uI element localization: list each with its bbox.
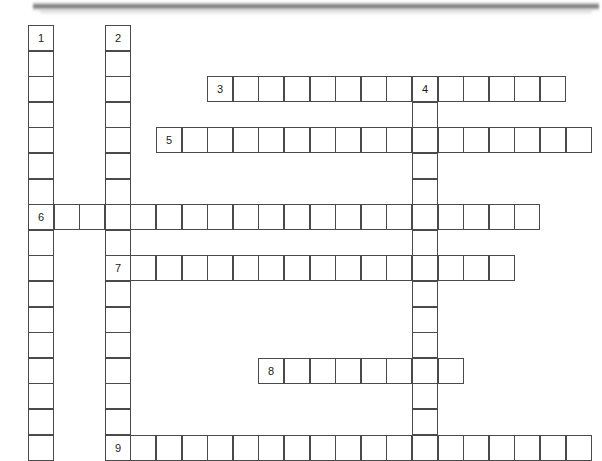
crossword-cell[interactable] <box>386 127 412 153</box>
crossword-cell[interactable] <box>412 307 438 333</box>
crossword-cell[interactable] <box>258 255 284 281</box>
crossword-cell[interactable] <box>310 204 336 230</box>
crossword-cell[interactable] <box>310 358 336 384</box>
crossword-cell[interactable] <box>258 435 284 461</box>
crossword-cell[interactable] <box>310 435 336 461</box>
crossword-cell[interactable] <box>412 255 438 281</box>
crossword-cell[interactable] <box>361 358 387 384</box>
crossword-cell[interactable] <box>489 76 515 102</box>
crossword-cell[interactable] <box>412 127 438 153</box>
crossword-cell[interactable] <box>438 204 464 230</box>
crossword-cell[interactable] <box>361 127 387 153</box>
crossword-cell[interactable] <box>284 255 310 281</box>
crossword-cell[interactable] <box>310 76 336 102</box>
crossword-cell[interactable] <box>412 435 438 461</box>
crossword-cell[interactable] <box>105 358 131 384</box>
crossword-cell[interactable] <box>514 435 540 461</box>
crossword-cell[interactable] <box>540 127 566 153</box>
crossword-cell[interactable] <box>28 255 54 281</box>
crossword-cell[interactable] <box>463 255 489 281</box>
crossword-cell[interactable] <box>105 409 131 435</box>
crossword-cell[interactable] <box>207 435 233 461</box>
crossword-cell[interactable] <box>412 153 438 179</box>
crossword-cell[interactable] <box>28 230 54 256</box>
crossword-cell[interactable] <box>438 127 464 153</box>
crossword-cell[interactable] <box>182 204 208 230</box>
crossword-cell-numbered[interactable]: 3 <box>207 76 233 102</box>
crossword-cell[interactable] <box>412 230 438 256</box>
crossword-cell-numbered[interactable]: 9 <box>105 435 131 461</box>
crossword-cell[interactable] <box>514 204 540 230</box>
crossword-cell[interactable] <box>335 127 361 153</box>
crossword-cell[interactable] <box>386 358 412 384</box>
crossword-cell[interactable] <box>412 383 438 409</box>
crossword-cell[interactable] <box>489 127 515 153</box>
crossword-cell[interactable] <box>386 435 412 461</box>
crossword-cell[interactable] <box>540 76 566 102</box>
crossword-cell[interactable] <box>386 255 412 281</box>
crossword-cell[interactable] <box>156 435 182 461</box>
crossword-cell[interactable] <box>182 127 208 153</box>
crossword-cell[interactable] <box>361 204 387 230</box>
crossword-cell[interactable] <box>438 435 464 461</box>
crossword-cell[interactable] <box>105 51 131 77</box>
crossword-cell[interactable] <box>28 409 54 435</box>
crossword-cell[interactable] <box>28 383 54 409</box>
crossword-cell[interactable] <box>233 435 259 461</box>
crossword-cell[interactable] <box>361 76 387 102</box>
crossword-cell-numbered[interactable]: 8 <box>258 358 284 384</box>
crossword-cell[interactable] <box>130 255 156 281</box>
crossword-cell[interactable] <box>463 127 489 153</box>
crossword-cell[interactable] <box>335 76 361 102</box>
crossword-cell[interactable] <box>566 127 592 153</box>
crossword-cell[interactable] <box>54 204 80 230</box>
crossword-cell[interactable] <box>258 204 284 230</box>
crossword-cell[interactable] <box>412 102 438 128</box>
crossword-cell[interactable] <box>310 127 336 153</box>
crossword-cell[interactable] <box>284 76 310 102</box>
crossword-cell[interactable] <box>361 255 387 281</box>
crossword-cell[interactable] <box>412 409 438 435</box>
crossword-cell[interactable] <box>438 255 464 281</box>
crossword-cell[interactable] <box>105 127 131 153</box>
crossword-cell[interactable] <box>207 127 233 153</box>
crossword-cell[interactable] <box>310 255 336 281</box>
crossword-cell[interactable] <box>28 179 54 205</box>
crossword-cell[interactable] <box>540 435 566 461</box>
crossword-cell[interactable] <box>28 281 54 307</box>
crossword-cell[interactable] <box>28 102 54 128</box>
crossword-cell[interactable] <box>105 307 131 333</box>
crossword-cell[interactable] <box>489 204 515 230</box>
crossword-cell[interactable] <box>207 204 233 230</box>
crossword-cell[interactable] <box>489 435 515 461</box>
crossword-cell[interactable] <box>28 435 54 461</box>
crossword-cell[interactable] <box>105 204 131 230</box>
crossword-cell[interactable] <box>386 76 412 102</box>
crossword-cell[interactable] <box>130 435 156 461</box>
crossword-cell[interactable] <box>182 435 208 461</box>
crossword-cell[interactable] <box>412 204 438 230</box>
crossword-cell[interactable] <box>105 281 131 307</box>
crossword-cell[interactable] <box>335 358 361 384</box>
crossword-cell[interactable] <box>258 76 284 102</box>
crossword-cell[interactable] <box>207 255 233 281</box>
crossword-cell[interactable] <box>566 435 592 461</box>
crossword-cell[interactable] <box>105 153 131 179</box>
crossword-cell-numbered[interactable]: 7 <box>105 255 131 281</box>
crossword-cell[interactable] <box>438 358 464 384</box>
crossword-cell[interactable] <box>412 179 438 205</box>
crossword-cell[interactable] <box>489 255 515 281</box>
crossword-cell[interactable] <box>28 76 54 102</box>
crossword-cell[interactable] <box>130 204 156 230</box>
crossword-cell[interactable] <box>28 51 54 77</box>
crossword-cell[interactable] <box>284 358 310 384</box>
crossword-cell[interactable] <box>105 76 131 102</box>
crossword-cell[interactable] <box>182 255 208 281</box>
crossword-cell[interactable] <box>156 204 182 230</box>
crossword-cell[interactable] <box>105 179 131 205</box>
crossword-cell[interactable] <box>514 127 540 153</box>
crossword-cell[interactable] <box>233 127 259 153</box>
crossword-cell[interactable] <box>28 307 54 333</box>
crossword-cell-numbered[interactable]: 6 <box>28 204 54 230</box>
crossword-cell[interactable] <box>335 255 361 281</box>
